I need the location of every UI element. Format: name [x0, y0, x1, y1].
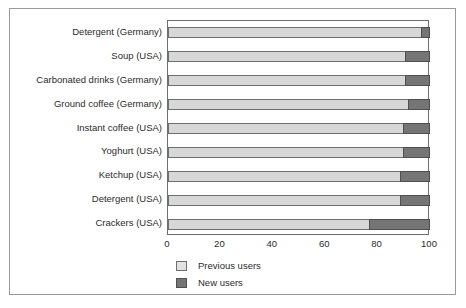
bars-container — [168, 21, 428, 234]
bar-segment-new-users — [405, 75, 430, 86]
bar-segment-new-users — [421, 27, 430, 38]
bar-segment-previous-users — [168, 219, 370, 230]
bar-track — [168, 171, 428, 182]
legend-item: Previous users — [176, 257, 261, 274]
bar-row — [168, 123, 428, 134]
bar-track — [168, 123, 428, 134]
bar-segment-new-users — [405, 51, 430, 62]
x-axis-tick-label: 100 — [421, 238, 437, 249]
bar-row — [168, 27, 428, 38]
bar-segment-previous-users — [168, 123, 404, 134]
new-users-swatch — [176, 278, 187, 288]
bar-track — [168, 51, 428, 62]
category-label: Soup (USA) — [111, 51, 162, 61]
bar-track — [168, 195, 428, 206]
bar-row — [168, 99, 428, 110]
bar-segment-new-users — [408, 99, 430, 110]
category-label: Crackers (USA) — [95, 218, 162, 228]
previous-users-swatch — [176, 261, 187, 271]
bar-segment-previous-users — [168, 195, 401, 206]
chart-figure: Detergent (Germany)Soup (USA)Carbonated … — [9, 8, 456, 295]
bar-row — [168, 75, 428, 86]
bar-segment-previous-users — [168, 51, 406, 62]
legend-item: New users — [176, 274, 261, 291]
x-axis-tick-label: 20 — [214, 238, 225, 249]
bar-segment-new-users — [400, 195, 430, 206]
bar-track — [168, 219, 428, 230]
bar-segment-previous-users — [168, 147, 404, 158]
chart-legend: Previous usersNew users — [176, 257, 261, 291]
bar-track — [168, 75, 428, 86]
bar-row — [168, 147, 428, 158]
category-label: Ketchup (USA) — [99, 170, 162, 180]
legend-label: New users — [198, 277, 243, 288]
bar-segment-previous-users — [168, 27, 422, 38]
x-axis-tick-label: 40 — [267, 238, 278, 249]
bar-row — [168, 51, 428, 62]
bar-segment-new-users — [400, 171, 430, 182]
category-label: Instant coffee (USA) — [77, 123, 162, 133]
category-label: Detergent (USA) — [92, 194, 162, 204]
category-label: Detergent (Germany) — [72, 27, 162, 37]
bar-row — [168, 219, 428, 230]
bar-track — [168, 147, 428, 158]
x-axis: 020406080100 — [167, 235, 429, 255]
bar-segment-new-users — [369, 219, 430, 230]
bar-segment-previous-users — [168, 99, 409, 110]
plot-area — [167, 20, 429, 235]
bar-row — [168, 195, 428, 206]
bar-row — [168, 171, 428, 182]
bar-segment-new-users — [403, 123, 430, 134]
category-label: Yoghurt (USA) — [101, 146, 162, 156]
category-axis-labels: Detergent (Germany)Soup (USA)Carbonated … — [10, 20, 162, 235]
x-axis-tick-label: 60 — [319, 238, 330, 249]
bar-segment-previous-users — [168, 171, 401, 182]
x-axis-tick-label: 80 — [371, 238, 382, 249]
category-label: Ground coffee (Germany) — [54, 99, 162, 109]
bar-segment-new-users — [403, 147, 430, 158]
bar-segment-previous-users — [168, 75, 406, 86]
legend-label: Previous users — [198, 260, 261, 271]
bar-track — [168, 27, 428, 38]
bar-track — [168, 99, 428, 110]
category-label: Carbonated drinks (Germany) — [36, 75, 162, 85]
x-axis-tick-label: 0 — [164, 238, 169, 249]
